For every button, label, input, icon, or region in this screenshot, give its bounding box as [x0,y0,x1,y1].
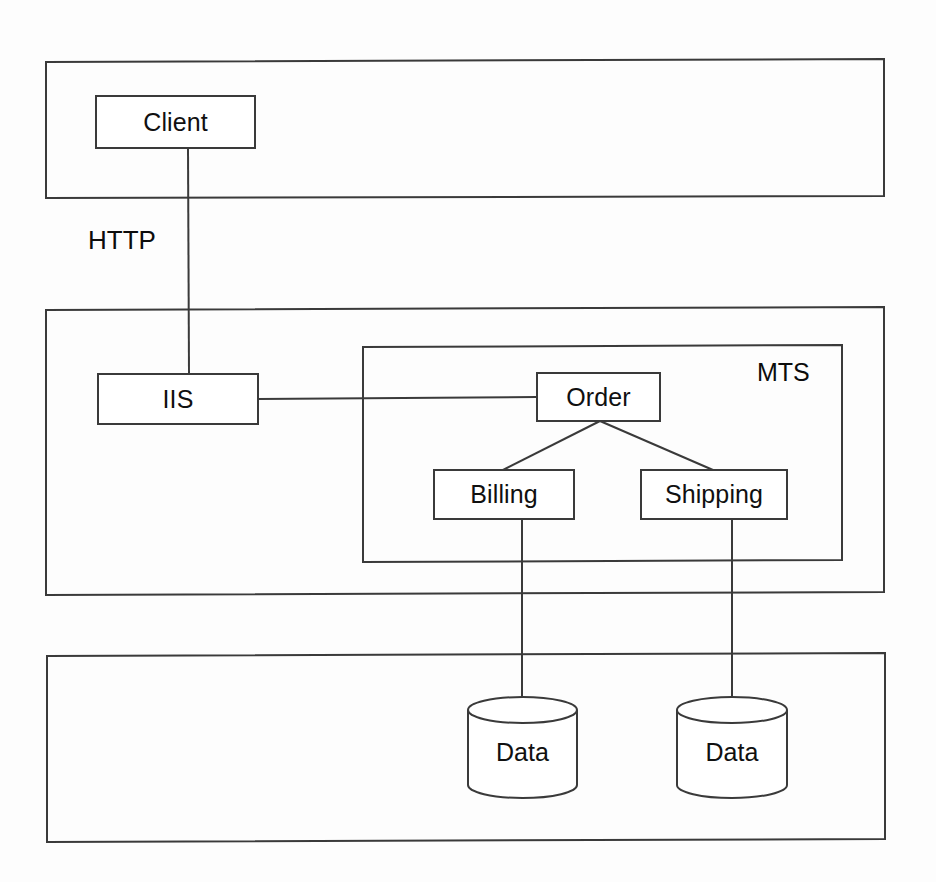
application-tier-box [46,307,884,595]
mts-container-label: MTS [757,360,810,385]
edge-http-label: HTTP [88,227,156,253]
node-billing-label: Billing [434,482,574,507]
architecture-diagram: Client IIS Order Billing Shipping Data D… [0,0,936,882]
edge-iis-to-order [258,397,537,399]
node-client-label: Client [96,110,255,135]
node-iis-label: IIS [98,387,258,412]
node-data-1-label: Data [468,740,577,765]
node-data-2-label: Data [677,740,787,765]
edge-order-to-shipping [600,421,713,470]
node-order-label: Order [537,385,660,410]
edge-client-to-iis [188,148,189,374]
node-shipping-label: Shipping [641,482,787,507]
edge-order-to-billing [503,421,600,470]
